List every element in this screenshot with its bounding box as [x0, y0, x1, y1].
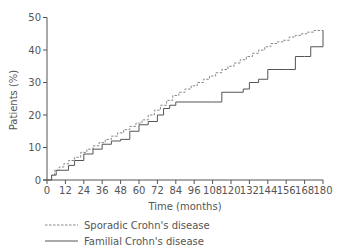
x-tick-label: 72 — [151, 185, 164, 196]
x-tick-label: 120 — [221, 185, 240, 196]
y-axis-title: Patients (%) — [8, 70, 19, 131]
sporadic-series-line — [47, 31, 323, 181]
x-tick-label: 108 — [203, 185, 222, 196]
x-tick-label: 180 — [313, 185, 332, 196]
y-tick-label: 30 — [28, 77, 41, 88]
x-tick-label: 24 — [77, 185, 90, 196]
x-tick-label: 132 — [240, 185, 259, 196]
legend-label-familial: Familial Crohn's disease — [84, 236, 204, 247]
x-tick-label: 156 — [277, 185, 296, 196]
x-tick-label: 168 — [295, 185, 314, 196]
legend-label-sporadic: Sporadic Crohn's disease — [84, 220, 210, 231]
y-tick-label: 10 — [28, 142, 41, 153]
x-axis: 01224364860728496108120132144156168180 — [43, 180, 333, 196]
legend: Sporadic Crohn's disease Familial Crohn'… — [45, 220, 210, 247]
y-axis: 01020304050 — [28, 12, 47, 186]
familial-series-line — [47, 31, 323, 181]
x-tick-label: 144 — [258, 185, 277, 196]
series-layer — [47, 31, 323, 181]
y-tick-label: 20 — [28, 110, 41, 121]
x-tick-label: 36 — [96, 185, 109, 196]
x-axis-title: Time (months) — [147, 201, 221, 212]
y-tick-label: 40 — [28, 45, 41, 56]
x-tick-label: 84 — [169, 185, 182, 196]
x-tick-label: 96 — [188, 185, 201, 196]
x-tick-label: 12 — [59, 185, 72, 196]
x-tick-label: 48 — [114, 185, 127, 196]
y-tick-label: 50 — [28, 12, 41, 23]
survival-chart: 01020304050 0122436486072849610812013214… — [0, 0, 347, 250]
y-tick-label: 0 — [35, 175, 41, 186]
x-tick-label: 0 — [44, 185, 50, 196]
x-tick-label: 60 — [133, 185, 146, 196]
